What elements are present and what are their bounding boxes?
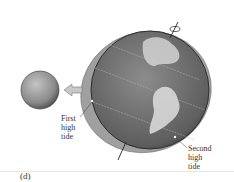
panel-label: (d) [20, 171, 31, 181]
label-line: tide [188, 162, 212, 171]
first-tide-marker [91, 100, 93, 102]
tide-diagram: First high tide Second high tide (d) [0, 0, 234, 182]
second-high-tide-label: Second high tide [188, 144, 212, 171]
arrow-left-icon [64, 84, 82, 96]
second-tide-marker [174, 136, 176, 138]
label-line: tide [61, 132, 76, 141]
label-line: Second [188, 144, 212, 153]
moon [21, 71, 59, 109]
first-high-tide-label: First high tide [61, 114, 76, 141]
label-line: high [188, 153, 212, 162]
earth [91, 31, 209, 149]
label-line: high [61, 123, 76, 132]
label-line: First [61, 114, 76, 123]
divider [0, 171, 234, 172]
